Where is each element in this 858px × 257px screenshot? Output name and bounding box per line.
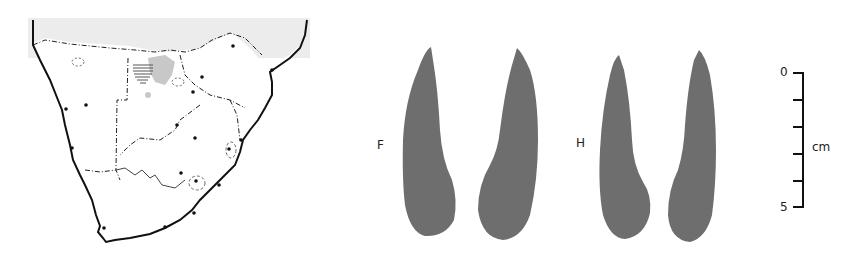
scale-min-label: 0 bbox=[780, 65, 788, 79]
artifact-f-left bbox=[403, 47, 456, 236]
southern-africa-map bbox=[0, 0, 330, 257]
shaded-area-small bbox=[145, 92, 151, 98]
artifact-f-right bbox=[478, 48, 538, 240]
scale-unit-label: cm bbox=[812, 140, 830, 154]
artifact-h-right bbox=[668, 50, 716, 242]
artifact-label-h: H bbox=[576, 136, 585, 150]
scale-max-label: 5 bbox=[780, 200, 788, 214]
artifact-label-f: F bbox=[377, 138, 384, 152]
scale-bar-ruler bbox=[760, 60, 850, 240]
artifact-drawings bbox=[360, 0, 760, 257]
scale-bar: 0 5 cm bbox=[760, 60, 850, 240]
artifact-h-left bbox=[599, 55, 650, 239]
